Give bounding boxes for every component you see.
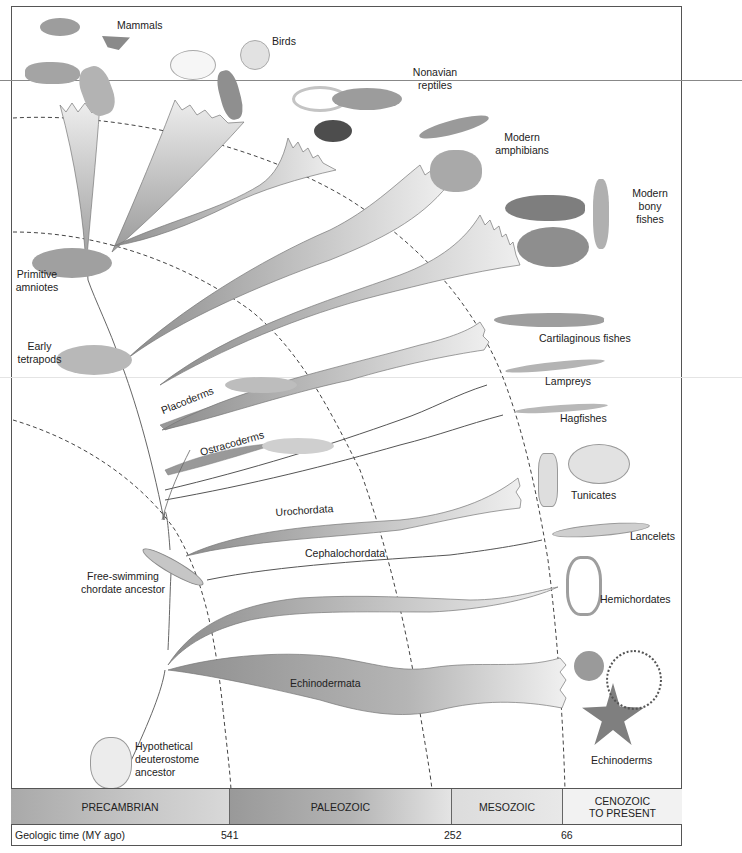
era-paleozoic: PALEOZOIC	[230, 789, 452, 824]
label-modern-bony-fishes-line3: fishes	[625, 213, 675, 226]
tunicate-illustration-2	[568, 444, 630, 484]
tunicate-illustration	[538, 453, 558, 507]
label-modern-amphibians-line2: amphibians	[487, 144, 557, 157]
cephalochordata-branch	[207, 540, 542, 580]
mammals-branch	[60, 103, 100, 268]
reptile-illustrations	[292, 84, 412, 154]
label-modern-bony-fishes-line1: Modern	[625, 187, 675, 200]
label-nonavian-reptiles-line2: reptiles	[400, 79, 470, 92]
label-cartilaginous-fishes: Cartilaginous fishes	[539, 332, 631, 345]
label-hemichordates: Hemichordates	[600, 593, 671, 606]
label-modern-amphibians-line1: Modern	[487, 131, 557, 144]
tick-66: 66	[561, 829, 573, 841]
label-free-swimming-line1: Free-swimming	[78, 570, 168, 583]
era-mesozoic: MESOZOIC	[452, 789, 563, 824]
era-band: PRECAMBRIAN PALEOZOIC MESOZOIC CENOZOICT…	[11, 788, 682, 825]
label-echinoderms: Echinoderms	[591, 754, 652, 767]
label-cephalochordata: Cephalochordata	[305, 547, 385, 560]
label-hypothetical-line3: ancestor	[135, 766, 175, 779]
brittle-star-illustration	[606, 650, 662, 710]
era-cenozoic: CENOZOICTO PRESENT	[563, 789, 682, 824]
placoderm-illustration	[225, 377, 297, 393]
label-hagfishes: Hagfishes	[560, 412, 607, 425]
timeline-label: Geologic time (MY ago)	[15, 829, 125, 841]
era-precambrian: PRECAMBRIAN	[11, 789, 230, 824]
label-primitive-amniotes-line2: amniotes	[12, 281, 62, 294]
early-tetrapod-illustration	[56, 345, 132, 375]
deuterostome-ancestor-illustration	[90, 737, 132, 789]
tick-541: 541	[221, 829, 239, 841]
label-tunicates: Tunicates	[571, 489, 616, 502]
urochordata-branch	[186, 478, 521, 556]
label-birds: Birds	[272, 35, 296, 48]
label-lancelets: Lancelets	[630, 530, 675, 543]
hemichordata-branch	[168, 587, 558, 665]
phylogeny-diagram: Mammals Birds Nonavian reptiles Modern a…	[0, 0, 742, 853]
geologic-timeline: Geologic time (MY ago) 541 252 66	[11, 825, 682, 846]
hemichordate-illustration	[566, 556, 602, 616]
label-primitive-amniotes-line1: Primitive	[12, 268, 62, 281]
shark-illustration	[494, 313, 604, 327]
label-hypothetical-line2: deuterostome	[135, 753, 199, 766]
modern-amphibians-branch	[128, 165, 448, 358]
tick-252: 252	[444, 829, 462, 841]
lampreys-branch	[165, 385, 487, 490]
label-free-swimming-line2: chordate ancestor	[78, 583, 168, 596]
bony-fish-illustrations	[505, 175, 615, 275]
cartilaginous-fishes-branch	[162, 322, 489, 430]
label-mammals: Mammals	[117, 19, 163, 32]
ostracoderm-illustration	[262, 438, 334, 454]
label-nonavian-reptiles-line1: Nonavian	[400, 66, 470, 79]
label-early-tetrapods-line2: tetrapods	[12, 353, 67, 366]
label-modern-bony-fishes-line2: bony	[625, 200, 675, 213]
trunk-lines	[86, 200, 172, 763]
label-early-tetrapods-line1: Early	[12, 340, 67, 353]
amphibian-illustrations	[418, 118, 498, 208]
echinodermata-branch	[168, 654, 566, 714]
label-echinodermata: Echinodermata	[290, 677, 361, 690]
label-hypothetical-line1: Hypothetical	[135, 740, 193, 753]
label-lampreys: Lampreys	[545, 375, 591, 388]
sea-urchin-illustration	[574, 651, 604, 681]
